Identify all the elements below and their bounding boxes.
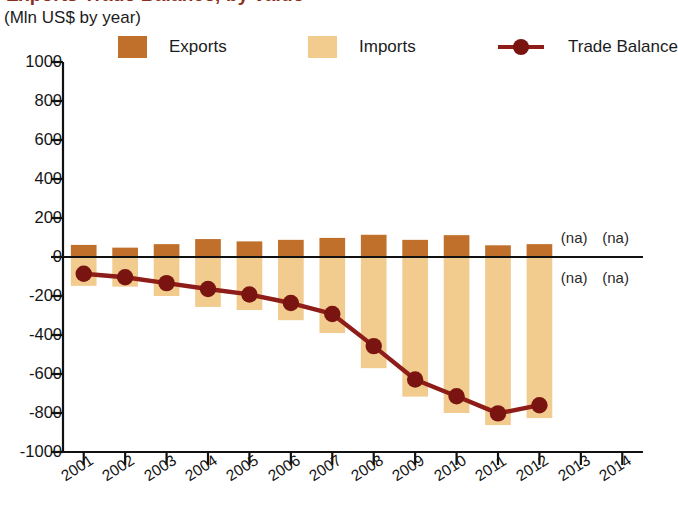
- y-axis-tick-label: -1000: [6, 442, 62, 461]
- bar-imports: [485, 257, 511, 425]
- y-axis-tick-label: 600: [6, 130, 62, 149]
- trade-balance-point: [366, 338, 382, 354]
- trade-balance-point: [324, 306, 340, 322]
- bar-exports: [444, 235, 470, 257]
- trade-balance-point: [76, 266, 92, 282]
- y-axis-tick-label: -600: [6, 364, 62, 383]
- bar-exports: [527, 244, 553, 257]
- y-axis-tick-label: 400: [6, 169, 62, 188]
- bar-exports: [237, 241, 263, 257]
- bar-exports: [154, 244, 180, 257]
- trade-balance-point: [283, 295, 299, 311]
- trade-balance-line: [84, 274, 540, 414]
- y-axis-tick-label: 200: [6, 208, 62, 227]
- trade-balance-point: [490, 405, 506, 421]
- trade-balance-line-layer: [76, 266, 548, 422]
- y-axis-tick-label: -400: [6, 325, 62, 344]
- trade-balance-point: [241, 286, 257, 302]
- trade-balance-point: [448, 388, 464, 404]
- bars-layer: [71, 235, 552, 425]
- na-annotation: (na): [561, 229, 588, 246]
- trade-balance-point: [531, 397, 547, 413]
- y-axis-tick-label: 0: [6, 247, 62, 266]
- y-axis-tick-label: 800: [6, 91, 62, 110]
- y-axis-tick-label: -800: [6, 403, 62, 422]
- trade-balance-point: [117, 269, 133, 285]
- y-axis-tick-label: -200: [6, 286, 62, 305]
- bar-exports: [112, 248, 138, 257]
- bar-exports: [71, 245, 97, 257]
- trade-balance-point: [200, 281, 216, 297]
- bar-exports: [278, 240, 304, 257]
- bar-exports: [195, 239, 221, 257]
- bar-imports: [527, 257, 553, 418]
- axis-layer: [51, 62, 643, 465]
- na-annotation: (na): [602, 229, 629, 246]
- na-annotation: (na): [561, 269, 588, 286]
- trade-balance-point: [407, 371, 423, 387]
- bar-exports: [319, 238, 345, 257]
- bar-exports: [361, 235, 387, 257]
- na-annotation: (na): [602, 269, 629, 286]
- bar-exports: [402, 240, 428, 257]
- y-axis-tick-label: 1000: [6, 52, 62, 71]
- trade-balance-point: [158, 275, 174, 291]
- bar-exports: [485, 245, 511, 257]
